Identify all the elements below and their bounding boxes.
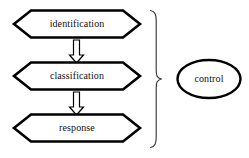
arrow-classification-response xyxy=(70,92,84,115)
hexagon-classification-label: classification xyxy=(14,70,140,81)
curly-brace xyxy=(151,11,162,148)
arrow-identification-classification xyxy=(70,40,84,63)
hexagon-response-label: response xyxy=(14,122,140,133)
hexagon-identification-label: identification xyxy=(14,18,140,29)
ellipse-control-label: control xyxy=(177,73,241,84)
flowchart-diagram: identification classification response c… xyxy=(0,0,249,158)
